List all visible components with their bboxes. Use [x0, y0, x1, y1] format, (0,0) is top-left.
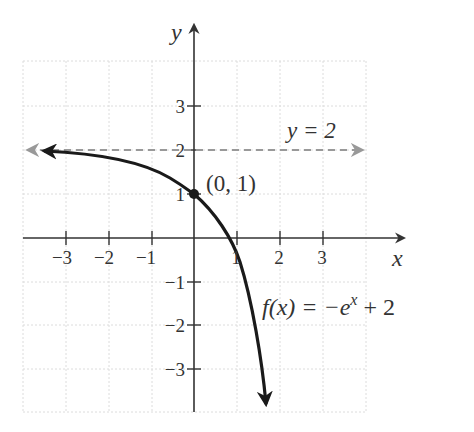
y-tick-label: −3: [165, 359, 185, 380]
x-tick-labels: −3 −2 −1 1 2 3: [52, 247, 327, 268]
point-marker: [189, 189, 199, 199]
x-tick-label: −1: [136, 247, 156, 268]
y-tick-label: 2: [176, 140, 186, 161]
x-tick-label: −2: [94, 247, 114, 268]
point-label: (0, 1): [206, 171, 256, 196]
x-tick-label: 1: [231, 247, 241, 268]
x-tick-label: −3: [52, 247, 72, 268]
y-tick-label: −1: [165, 272, 185, 293]
y-tick-label: −2: [165, 315, 185, 336]
y-tick-label: 3: [176, 96, 186, 117]
y-tick-label: 1: [176, 184, 186, 205]
y-axis-label: y: [169, 19, 182, 45]
function-graph: −3 −2 −1 1 2 3 3 2 1 −1 −2 −3 y x (0, 1)…: [0, 0, 474, 432]
function-label: f(x) = −ex + 2: [262, 291, 395, 320]
x-tick-label: 3: [317, 247, 327, 268]
function-label-tail: + 2: [357, 294, 395, 320]
function-label-main: f(x) = −e: [262, 294, 351, 320]
x-axis-label: x: [391, 245, 403, 271]
asymptote-label: y = 2: [285, 118, 336, 143]
function-label-exponent: x: [349, 291, 357, 308]
x-tick-label: 2: [274, 247, 284, 268]
